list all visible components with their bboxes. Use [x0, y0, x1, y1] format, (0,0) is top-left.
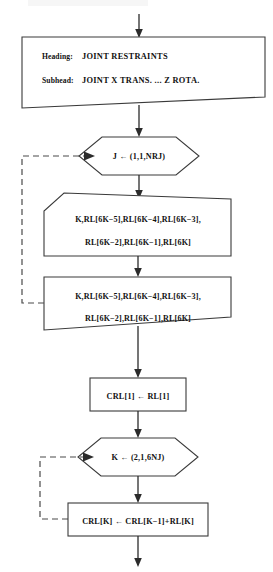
loop-j-node: J ← (1,1,NRJ) — [79, 137, 199, 175]
loop-k-node: K ← (2,1,6NJ) — [78, 438, 198, 476]
subhead-value: JOINT X TRANS. ... Z ROTA. — [82, 76, 200, 85]
subhead-label: Subhead: — [42, 76, 74, 85]
io-read-node: K,RL[6K−5],RL[6K−4],RL[6K−3], RL[6K−2],R… — [44, 193, 231, 256]
exit-arrow — [134, 536, 142, 567]
header-document-node: Heading: JOINT RESTRAINTS Subhead: JOINT… — [22, 37, 265, 108]
entry-arrow — [135, 14, 143, 38]
connector-loop-k-to-assign-crlk — [134, 476, 142, 503]
loop-k-text: K ← (2,1,6NJ) — [111, 453, 164, 462]
assign-crlk-text: CRL[K] ← CRL[K−1]+RL[K] — [82, 517, 194, 526]
flowchart-svg: Heading: JOINT RESTRAINTS Subhead: JOINT… — [0, 0, 273, 572]
io-read-line-2: RL[6K−2],RL[6K−1],RL[6K] — [85, 238, 191, 247]
connector-header-to-loop-j — [135, 105, 143, 137]
heading-value: JOINT RESTRAINTS — [82, 52, 168, 61]
connector-io-read-to-io-write — [134, 256, 142, 277]
io-read-line-1: K,RL[6K−5],RL[6K−4],RL[6K−3], — [75, 215, 201, 224]
io-write-line-2: RL[6K−2],RL[6K−1],RL[6K] — [85, 314, 191, 323]
io-write-line-1: K,RL[6K−5],RL[6K−4],RL[6K−3], — [75, 292, 201, 301]
loop-j-text: J ← (1,1,NRJ) — [113, 152, 166, 161]
flowchart-canvas: Heading: JOINT RESTRAINTS Subhead: JOINT… — [0, 0, 273, 572]
connector-io-write-to-assign-crl1 — [134, 326, 142, 378]
connector-assign-crl1-to-loop-k — [134, 411, 142, 438]
assign-crl1-node: CRL[1] ← RL[1] — [90, 378, 186, 411]
assign-crlk-node: CRL[K] ← CRL[K−1]+RL[K] — [68, 503, 208, 536]
io-write-node: K,RL[6K−5],RL[6K−4],RL[6K−3], RL[6K−2],R… — [44, 277, 231, 330]
assign-crl1-text: CRL[1] ← RL[1] — [107, 392, 170, 401]
heading-label: Heading: — [42, 52, 73, 61]
